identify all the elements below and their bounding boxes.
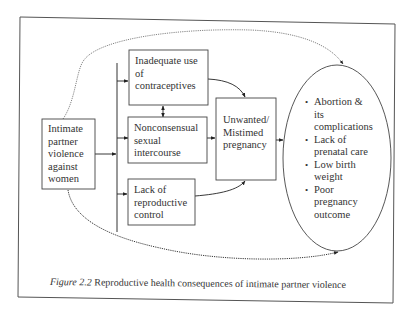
outcome-line: prenatal care (314, 146, 373, 159)
reproductive-control-label: Lack of reproductive control (134, 184, 187, 222)
nonconsensual-line: Nonconsensual (134, 122, 198, 135)
bullet-icon: • (305, 159, 308, 172)
outcomes-list: • Abortion & its complications • Lack of… (305, 96, 373, 221)
figure-label: Figure 2.2 (50, 276, 92, 287)
nonconsensual-label: Nonconsensual sexual intercourse (134, 122, 198, 160)
edge-reproductive-control-to-unwanted (195, 181, 245, 196)
reproductive-control-line: control (134, 209, 187, 222)
edge-contraceptives-to-unwanted (208, 79, 245, 97)
unwanted-label: Unwanted/ Mistimed pregnancy (223, 114, 269, 152)
outcome-item: • Low birth weight (305, 159, 373, 184)
ipv-line: Intimate (48, 123, 84, 136)
bullet-icon: • (305, 184, 308, 197)
outcome-line: Lack of (314, 134, 373, 147)
reproductive-control-line: reproductive (134, 197, 187, 210)
outcome-line: Low birth (314, 159, 373, 172)
outcome-item: • Poor pregnancy outcome (305, 184, 373, 222)
outcome-line: Poor (314, 184, 373, 197)
outcome-line: pregnancy (314, 196, 373, 209)
unwanted-line: Mistimed (223, 127, 269, 140)
ipv-line: violence (48, 148, 84, 161)
unwanted-line: Unwanted/ (223, 114, 269, 127)
contraceptives-line: of (135, 68, 198, 81)
ipv-label: Intimate partner violence against women (48, 123, 84, 186)
reproductive-control-line: Lack of (134, 184, 187, 197)
outcome-line: its (314, 109, 373, 122)
outcome-item: • Lack of prenatal care (305, 134, 373, 159)
bullet-icon: • (305, 134, 308, 147)
outcome-line: weight (314, 171, 373, 184)
ipv-line: partner (48, 136, 84, 149)
contraceptives-line: Inadequate use (135, 55, 198, 68)
nonconsensual-line: sexual (134, 135, 198, 148)
edge-ipv-to-outcomes-bottom (68, 190, 338, 259)
unwanted-line: pregnancy (223, 139, 269, 152)
outcome-item: • Abortion & its complications (305, 96, 373, 134)
contraceptives-line: contraceptives (135, 80, 198, 93)
ipv-line: against (48, 161, 84, 174)
ipv-line: women (48, 173, 84, 186)
nonconsensual-line: intercourse (134, 147, 198, 160)
bullet-icon: • (305, 96, 308, 109)
contraceptives-label: Inadequate use of contraceptives (135, 55, 198, 93)
outcome-line: Abortion & (314, 96, 373, 109)
outcome-line: outcome (314, 209, 373, 222)
outcome-line: complications (314, 121, 373, 134)
